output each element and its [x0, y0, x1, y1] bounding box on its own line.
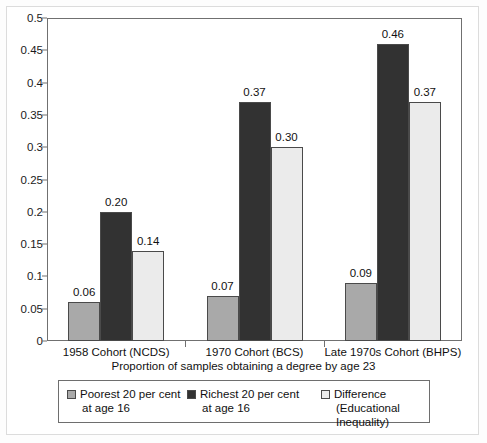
bar-value-label: 0.30: [275, 131, 297, 143]
legend-entry: Richest 20 per centat age 16: [187, 387, 299, 415]
y-axis-tick-mark: [42, 18, 47, 19]
bar-value-label: 0.06: [73, 286, 95, 298]
y-axis-tick-label: 0.35: [21, 109, 43, 121]
y-axis-tick-label: 0.2: [27, 206, 43, 218]
legend-label-line2: at age 16: [82, 401, 180, 415]
legend-label-line1: Difference: [334, 388, 386, 400]
x-axis-group-label: 1958 Cohort (NCDS): [63, 346, 170, 358]
legend-label-line2: (Educational Inequality): [336, 401, 429, 429]
y-axis-tick-mark: [42, 276, 47, 277]
bar: [207, 296, 239, 341]
y-axis-tick-label: 0.5: [27, 12, 43, 24]
bar: [271, 147, 303, 341]
y-axis-tick-mark: [42, 244, 47, 245]
bar-value-label: 0.46: [382, 28, 404, 40]
y-axis-tick-mark: [42, 82, 47, 83]
x-axis-group-label: Late 1970s Cohort (BHPS): [324, 346, 461, 358]
legend-label-line1: Richest 20 per cent: [200, 388, 299, 400]
legend-swatch-icon: [187, 390, 196, 399]
bar: [345, 283, 377, 341]
legend-label-line1: Poorest 20 per cent: [80, 388, 180, 400]
y-axis: 00.050.10.150.20.250.30.350.40.450.5: [0, 0, 43, 343]
bar-value-label: 0.14: [137, 235, 159, 247]
y-axis-tick-mark: [42, 179, 47, 180]
x-axis-group-separator-tick: [324, 341, 325, 347]
y-axis-tick-label: 0.3: [27, 141, 43, 153]
y-axis-tick-mark: [42, 341, 47, 342]
legend-label-line2: at age 16: [202, 401, 299, 415]
y-axis-tick-label: 0.25: [21, 174, 43, 186]
legend-swatch-icon: [67, 390, 76, 399]
y-axis-tick-mark: [42, 114, 47, 115]
bar-value-label: 0.37: [414, 86, 436, 98]
legend-entry: Poorest 20 per centat age 16: [67, 387, 180, 415]
bar: [100, 212, 132, 341]
y-axis-tick-mark: [42, 308, 47, 309]
y-axis-tick-label: 0.15: [21, 238, 43, 250]
chart-figure: 00.050.10.150.20.250.30.350.40.450.5 0.0…: [0, 0, 487, 443]
x-axis-group-label: 1970 Cohort (BCS): [206, 346, 304, 358]
bar: [68, 302, 100, 341]
x-axis-group-separator-tick: [185, 341, 186, 347]
y-axis-tick-label: 0.45: [21, 44, 43, 56]
chart-legend: Poorest 20 per centat age 16Richest 20 p…: [58, 380, 430, 423]
y-axis-tick-label: 0.05: [21, 303, 43, 315]
bar-value-label: 0.20: [105, 196, 127, 208]
bar: [409, 102, 441, 341]
bar-value-label: 0.37: [243, 86, 265, 98]
y-axis-tick-mark: [42, 147, 47, 148]
legend-entry: Difference(Educational Inequality): [321, 387, 429, 429]
bar: [239, 102, 271, 341]
bar-value-label: 0.07: [211, 280, 233, 292]
x-axis-title: Proportion of samples obtaining a degree…: [0, 360, 487, 372]
bar: [132, 251, 164, 341]
bar-value-label: 0.09: [350, 267, 372, 279]
y-axis-tick-mark: [42, 211, 47, 212]
bar: [377, 44, 409, 341]
y-axis-tick-label: 0.1: [27, 270, 43, 282]
y-axis-tick-label: 0.4: [27, 77, 43, 89]
legend-swatch-icon: [321, 390, 330, 399]
y-axis-tick-mark: [42, 50, 47, 51]
